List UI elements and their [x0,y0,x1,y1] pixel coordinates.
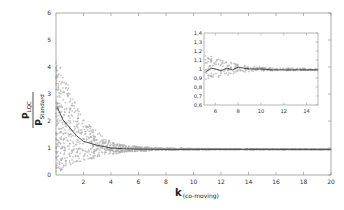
svg-text:0,8: 0,8 [194,84,202,90]
main-chart: 24681012141618200123456 681012140,60,70,… [0,0,344,210]
svg-text:20: 20 [327,178,335,185]
svg-text:12: 12 [217,178,225,185]
svg-text:3: 3 [47,90,51,97]
svg-text:10: 10 [258,108,265,114]
svg-text:8: 8 [164,178,168,185]
x-axis-label: k(co-moving) [175,187,219,200]
svg-text:1,2: 1,2 [194,48,202,54]
svg-text:0,9: 0,9 [194,75,202,81]
svg-text:1,4: 1,4 [194,30,203,36]
svg-text:18: 18 [300,178,308,185]
svg-text:14: 14 [245,178,253,185]
svg-text:1,3: 1,3 [194,39,202,45]
svg-text:1: 1 [47,144,51,151]
svg-text:6: 6 [47,9,51,16]
svg-text:6: 6 [214,108,217,114]
svg-text:4: 4 [47,63,51,70]
svg-text:14: 14 [303,108,310,114]
mean-curve [57,108,331,150]
svg-text:PLQC: PLQC [21,101,32,119]
svg-text:8: 8 [237,108,240,114]
svg-text:PStandard: PStandard [34,94,45,126]
svg-text:2: 2 [47,117,51,124]
svg-text:1,1: 1,1 [194,57,202,63]
svg-text:10: 10 [190,178,198,185]
y-axis-label: PLQC PStandard [21,92,45,128]
svg-text:0,7: 0,7 [194,93,202,99]
svg-text:12: 12 [280,108,287,114]
svg-text:2: 2 [82,178,86,185]
svg-text:1: 1 [199,66,202,72]
svg-text:16: 16 [272,178,280,185]
svg-text:0,6: 0,6 [194,102,202,108]
svg-text:6: 6 [137,178,141,185]
svg-text:4: 4 [109,178,113,185]
svg-text:5: 5 [47,36,51,43]
svg-text:0: 0 [47,171,51,178]
inset-chart: 681012140,60,70,80,911,11,21,31,4 [194,30,319,114]
